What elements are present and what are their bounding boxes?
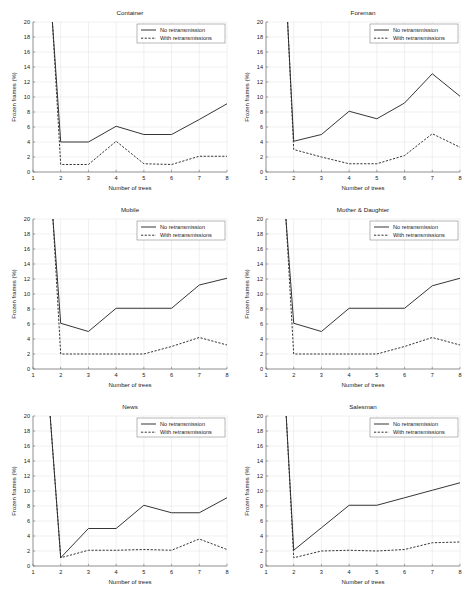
- svg-text:2: 2: [260, 548, 263, 554]
- svg-text:10: 10: [257, 488, 263, 494]
- grid-lines: [33, 219, 227, 369]
- grid-lines: [266, 22, 460, 172]
- x-axis-label: Number of trees: [341, 382, 384, 388]
- svg-text:10: 10: [24, 291, 30, 297]
- svg-text:16: 16: [24, 246, 30, 252]
- legend-label: No retransmission: [160, 27, 205, 33]
- svg-text:8: 8: [458, 372, 461, 378]
- chart-panel-container: 0246810121416182012345678ContainerNumber…: [0, 0, 233, 197]
- svg-text:0: 0: [27, 563, 30, 569]
- chart-title: News: [122, 403, 137, 410]
- chart-title: Salesman: [349, 403, 377, 410]
- svg-text:2: 2: [27, 351, 30, 357]
- svg-text:10: 10: [24, 488, 30, 494]
- svg-text:5: 5: [142, 569, 145, 575]
- svg-text:2: 2: [292, 569, 295, 575]
- svg-text:10: 10: [257, 94, 263, 100]
- svg-text:0: 0: [260, 563, 263, 569]
- svg-text:5: 5: [142, 372, 145, 378]
- legend-label: With retransmissions: [393, 232, 445, 238]
- chart-legend: No retransmissionWith retransmissions: [137, 24, 225, 43]
- chart-legend: No retransmissionWith retransmissions: [370, 418, 458, 437]
- svg-text:2: 2: [260, 351, 263, 357]
- svg-text:3: 3: [87, 175, 90, 181]
- legend-label: With retransmissions: [393, 35, 445, 41]
- svg-text:0: 0: [260, 169, 263, 175]
- svg-text:5: 5: [375, 372, 378, 378]
- svg-text:18: 18: [257, 231, 263, 237]
- series-line-with-retransmissions: [288, 22, 460, 164]
- svg-text:6: 6: [170, 175, 173, 181]
- axis-ticks: 0246810121416182012345678: [24, 413, 229, 575]
- svg-text:10: 10: [257, 291, 263, 297]
- svg-text:12: 12: [24, 79, 30, 85]
- svg-text:3: 3: [320, 372, 323, 378]
- svg-text:14: 14: [257, 261, 263, 267]
- svg-text:0: 0: [27, 366, 30, 372]
- series-line-with-retransmissions: [50, 416, 227, 558]
- svg-text:12: 12: [24, 473, 30, 479]
- svg-text:2: 2: [27, 154, 30, 160]
- x-axis-label: Number of trees: [108, 382, 151, 388]
- svg-text:6: 6: [27, 124, 30, 130]
- svg-text:2: 2: [27, 548, 30, 554]
- svg-text:20: 20: [24, 216, 30, 222]
- svg-text:8: 8: [27, 109, 30, 115]
- svg-text:1: 1: [31, 175, 34, 181]
- svg-text:8: 8: [458, 175, 461, 181]
- svg-text:16: 16: [257, 49, 263, 55]
- svg-text:18: 18: [257, 34, 263, 40]
- svg-text:16: 16: [257, 246, 263, 252]
- y-axis-label: Frozen frames (%): [244, 466, 250, 516]
- series-group: [286, 416, 460, 558]
- svg-text:4: 4: [348, 569, 351, 575]
- legend-label: No retransmission: [393, 224, 438, 230]
- chart-legend: No retransmissionWith retransmissions: [137, 221, 225, 240]
- grid-lines: [33, 416, 227, 566]
- svg-text:7: 7: [431, 175, 434, 181]
- svg-text:12: 12: [24, 276, 30, 282]
- chart-legend: No retransmissionWith retransmissions: [370, 24, 458, 43]
- chart-title: Mobile: [121, 206, 140, 213]
- svg-text:6: 6: [403, 175, 406, 181]
- svg-text:2: 2: [260, 154, 263, 160]
- svg-text:2: 2: [292, 372, 295, 378]
- svg-text:14: 14: [24, 64, 30, 70]
- svg-text:4: 4: [115, 569, 118, 575]
- svg-text:2: 2: [59, 175, 62, 181]
- svg-text:4: 4: [260, 336, 263, 342]
- svg-text:2: 2: [292, 175, 295, 181]
- svg-text:12: 12: [257, 79, 263, 85]
- svg-text:8: 8: [27, 306, 30, 312]
- svg-text:2: 2: [59, 569, 62, 575]
- chart-legend: No retransmissionWith retransmissions: [137, 418, 225, 437]
- chart-panel-mobile: 0246810121416182012345678MobileNumber of…: [0, 197, 233, 394]
- svg-text:2: 2: [59, 372, 62, 378]
- series-group: [52, 22, 227, 165]
- svg-text:6: 6: [403, 372, 406, 378]
- svg-text:6: 6: [170, 372, 173, 378]
- svg-text:8: 8: [225, 372, 228, 378]
- legend-label: No retransmission: [160, 224, 205, 230]
- grid-lines: [266, 219, 460, 369]
- svg-text:8: 8: [225, 175, 228, 181]
- series-line-no-retransmission: [50, 416, 227, 558]
- svg-text:0: 0: [27, 169, 30, 175]
- series-group: [288, 22, 460, 164]
- svg-text:18: 18: [24, 34, 30, 40]
- svg-text:5: 5: [375, 175, 378, 181]
- svg-text:4: 4: [27, 139, 30, 145]
- svg-text:4: 4: [260, 533, 263, 539]
- svg-text:1: 1: [264, 569, 267, 575]
- svg-text:6: 6: [27, 321, 30, 327]
- svg-text:16: 16: [257, 443, 263, 449]
- svg-text:20: 20: [24, 19, 30, 25]
- x-axis-label: Number of trees: [108, 579, 151, 585]
- svg-text:20: 20: [24, 413, 30, 419]
- svg-text:6: 6: [260, 518, 263, 524]
- svg-text:1: 1: [264, 372, 267, 378]
- svg-text:1: 1: [31, 569, 34, 575]
- legend-label: With retransmissions: [393, 429, 445, 435]
- y-axis-label: Frozen frames (%): [11, 72, 17, 122]
- svg-text:3: 3: [320, 175, 323, 181]
